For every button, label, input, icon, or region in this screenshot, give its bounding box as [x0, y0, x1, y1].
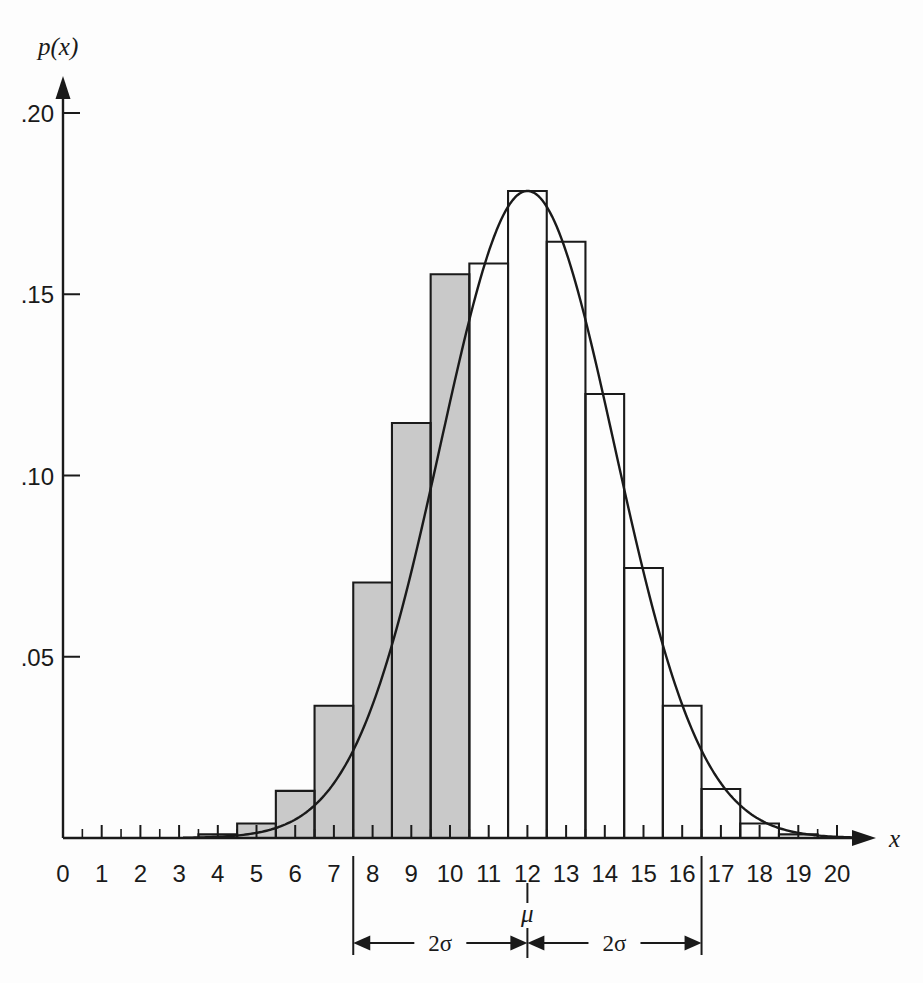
mu-annotation-label: μ — [520, 900, 534, 927]
x-axis-tick-label: 12 — [514, 860, 541, 887]
right-sigma-span-label: 2σ — [603, 931, 628, 956]
x-axis-tick-label: 9 — [405, 860, 418, 887]
y-axis-tick-label: .20 — [21, 100, 54, 127]
x-axis-tick-label: 6 — [289, 860, 302, 887]
y-axis-tick-label: .15 — [21, 281, 54, 308]
x-axis-tick-label: 3 — [172, 860, 185, 887]
x-axis-tick-label: 5 — [250, 860, 263, 887]
x-axis-title: x — [888, 825, 900, 852]
shaded-bar-fill — [353, 582, 392, 838]
x-axis-tick-label: 16 — [669, 860, 696, 887]
x-axis-tick-label: 1 — [95, 860, 108, 887]
x-axis-tick-label: 17 — [708, 860, 735, 887]
histogram-normal-curve-chart: 01234567891011121314151617181920 .05.10.… — [0, 0, 923, 983]
x-axis-tick-label: 13 — [553, 860, 580, 887]
x-axis-tick-label: 7 — [327, 860, 340, 887]
x-axis-tick-label: 15 — [630, 860, 657, 887]
shaded-bar-fill — [431, 274, 470, 838]
shaded-bar-fill — [392, 423, 431, 838]
x-axis-tick-label: 19 — [785, 860, 812, 887]
left-sigma-span-label: 2σ — [428, 931, 453, 956]
x-axis-tick-label: 8 — [366, 860, 379, 887]
y-axis-title: p(x) — [36, 33, 78, 61]
x-axis-tick-label: 18 — [746, 860, 773, 887]
x-axis-tick-label: 0 — [56, 860, 69, 887]
x-axis-tick-label: 2 — [134, 860, 147, 887]
y-axis-tick-label: .05 — [21, 644, 54, 671]
x-axis-tick-label: 20 — [824, 860, 851, 887]
figure-root: 01234567891011121314151617181920 .05.10.… — [0, 0, 923, 983]
shaded-bar-fill — [315, 706, 354, 838]
y-axis-tick-label: .10 — [21, 463, 54, 490]
x-axis-tick-label: 10 — [437, 860, 464, 887]
x-axis-tick-label: 4 — [211, 860, 224, 887]
x-axis-tick-label: 14 — [591, 860, 618, 887]
x-axis-tick-label: 11 — [476, 860, 501, 887]
